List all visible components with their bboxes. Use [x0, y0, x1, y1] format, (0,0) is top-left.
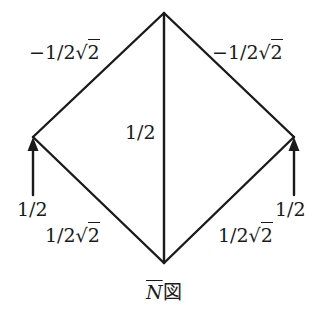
sqrt-icon: √ [76, 226, 88, 245]
label-coef: −1/2 [29, 41, 76, 63]
label-coef: 1/2 [45, 224, 76, 246]
label-coef: −1/2 [212, 41, 259, 63]
caption-symbol: N [146, 281, 163, 303]
sqrt-icon: √ [76, 43, 88, 62]
caption-suffix: 図 [163, 281, 182, 303]
label-coef: 1/2 [218, 224, 249, 246]
label-root: 2 [88, 222, 100, 246]
label-right-bottom: 1/2√2 [218, 226, 273, 245]
label-right-load: 1/2 [275, 200, 306, 219]
label-root: 2 [271, 39, 283, 63]
label-root: 2 [88, 39, 100, 63]
label-vertical: 1/2 [125, 123, 156, 142]
member-top-right [164, 13, 294, 137]
diagram-caption: N図 [146, 283, 182, 302]
sqrt-icon: √ [249, 226, 261, 245]
label-top-left: −1/2√2 [29, 43, 100, 62]
label-left-load: 1/2 [17, 200, 48, 219]
sqrt-icon: √ [259, 43, 271, 62]
label-left-bottom: 1/2√2 [45, 226, 100, 245]
label-top-right: −1/2√2 [212, 43, 283, 62]
member-top-left [33, 13, 164, 137]
label-root: 2 [261, 222, 273, 246]
